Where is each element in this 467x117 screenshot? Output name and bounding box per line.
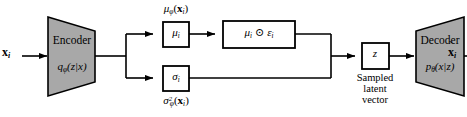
latent-caption: Sampled latent vector	[357, 72, 394, 105]
sigma-box-label: σi	[172, 71, 179, 84]
encoder-distribution: qφ(z|x)	[57, 61, 86, 74]
hadamard-product-icon: ⊙	[255, 26, 264, 38]
encoder-title: Encoder	[53, 34, 91, 46]
latent-box-label: z	[373, 48, 377, 60]
diagram-graphics	[0, 0, 467, 117]
decoder-shape	[416, 17, 464, 96]
encoder-shape	[48, 17, 95, 96]
input-label: xi	[2, 46, 10, 60]
latent-caption-line1: Sampled	[357, 72, 394, 83]
mu-box-label: μi	[172, 27, 180, 40]
latent-caption-line3: vector	[357, 94, 394, 105]
decoder-distribution: pθ(x|z)	[426, 61, 455, 74]
vae-diagram-canvas: xi Encoder qφ(z|x) μφ(xi) μi σi σ2φ(xi) …	[0, 0, 467, 117]
output-label: ˜xi	[448, 46, 456, 60]
sigma-function-label: σ2φ(xi)	[163, 95, 189, 109]
latent-caption-line2: latent	[357, 83, 394, 94]
mu-function-label: μφ(xi)	[164, 3, 189, 16]
reparameterization-label: μi⊙εi	[244, 27, 273, 40]
tilde-accent-icon: ˜	[449, 40, 453, 51]
